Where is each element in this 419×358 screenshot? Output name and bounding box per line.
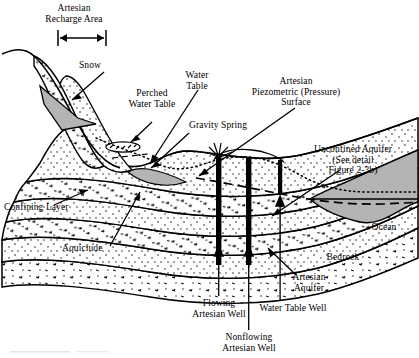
label-gravity-spring: Gravity Spring: [176, 120, 260, 131]
label-snow: Snow: [60, 60, 120, 71]
leader-perched: [131, 122, 152, 142]
label-ocean: Ocean: [362, 222, 406, 233]
cropped-caption-hint-2: [76, 351, 110, 352]
recharge-extent-bar: [58, 30, 106, 46]
label-water-table: Water Table: [168, 70, 226, 91]
label-perched-water-table: Perched Water Table: [104, 88, 200, 109]
label-piezometric-surface: Artesian Piezometric (Pressure) Surface: [231, 76, 361, 108]
hydrogeology-diagram: Artesian Recharge Area Snow Perched Wate…: [0, 0, 419, 358]
label-water-table-well: Water Table Well: [239, 303, 347, 314]
label-artesian-recharge-area: Artesian Recharge Area: [14, 3, 134, 24]
label-artesian-aquifer: Artesian Aquifer: [276, 272, 342, 293]
label-confining-layer: Confining Layer: [4, 202, 94, 213]
perched-water-lens: [106, 142, 140, 152]
cropped-caption-hint: [10, 351, 70, 353]
label-bedrock: Bedrock: [316, 252, 370, 263]
label-aquiclude: Aquiclude: [62, 243, 128, 254]
label-unconfined-aquifer: Unconfined Aquifer (See detail Figure 2-…: [292, 144, 414, 176]
label-nonflowing-artesian-well: Nonflowing Artesian Well: [194, 332, 304, 353]
